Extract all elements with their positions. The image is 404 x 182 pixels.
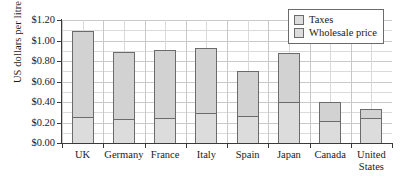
y-axis-title: US dollars per litre xyxy=(12,0,24,104)
bar-segment-taxes xyxy=(278,53,300,103)
bar-segment-taxes xyxy=(154,50,176,120)
legend-label: Taxes xyxy=(309,14,333,25)
x-axis-tick xyxy=(392,144,393,148)
y-axis-tick xyxy=(57,41,62,42)
stacked-bar-chart: US dollars per litre $0.00$0.20$0.40$0.6… xyxy=(0,0,404,182)
x-axis-tick xyxy=(103,144,104,148)
legend-swatch-icon xyxy=(294,15,304,25)
bar-segment-wholesale-price xyxy=(237,116,259,144)
y-axis-tick-label: $1.00 xyxy=(31,36,55,46)
y-axis-tick xyxy=(57,61,62,62)
gridline-vertical xyxy=(227,20,228,143)
x-axis-tick xyxy=(145,144,146,148)
gridline-vertical xyxy=(103,20,104,143)
bar-group xyxy=(154,20,176,143)
bar-segment-taxes xyxy=(360,109,382,119)
y-axis-tick xyxy=(57,102,62,103)
bar-segment-wholesale-price xyxy=(278,102,300,144)
legend-item-wholesale-price: Wholesale price xyxy=(294,26,377,39)
x-axis-tick xyxy=(351,144,352,148)
y-axis-tick-label: $0.80 xyxy=(31,56,55,66)
y-axis-tick xyxy=(57,20,62,21)
x-axis-tick xyxy=(227,144,228,148)
x-axis-tick xyxy=(310,144,311,148)
bar-segment-taxes xyxy=(237,71,259,117)
x-axis-tick xyxy=(186,144,187,148)
bar-segment-wholesale-price xyxy=(195,113,217,144)
bar-segment-wholesale-price xyxy=(113,119,135,144)
bar-segment-taxes xyxy=(319,102,341,122)
bar-segment-taxes xyxy=(195,48,217,115)
legend-label: Wholesale price xyxy=(309,27,377,38)
gridline-vertical xyxy=(145,20,146,143)
bar-segment-taxes xyxy=(72,31,94,118)
legend-item-taxes: Taxes xyxy=(294,13,377,26)
chart-legend: Taxes Wholesale price xyxy=(288,9,384,44)
bar-group xyxy=(237,20,259,143)
bar-group xyxy=(113,20,135,143)
bar-segment-wholesale-price xyxy=(360,118,382,144)
y-axis-tick-label: $0.00 xyxy=(31,138,55,148)
y-axis-tick xyxy=(57,82,62,83)
bar-segment-wholesale-price xyxy=(319,121,341,144)
x-axis-tick-label: United States xyxy=(345,149,398,173)
x-axis-tick xyxy=(268,144,269,148)
y-axis-tick-label: $0.60 xyxy=(31,77,55,87)
y-axis-tick-label: $0.20 xyxy=(31,118,55,128)
gridline-vertical xyxy=(186,20,187,143)
y-axis-tick xyxy=(57,123,62,124)
legend-swatch-icon xyxy=(294,28,304,38)
bar-segment-wholesale-price xyxy=(72,117,94,144)
y-axis-tick-label: $1.20 xyxy=(31,15,55,25)
bar-segment-taxes xyxy=(113,52,135,121)
x-axis-tick xyxy=(62,144,63,148)
bar-group xyxy=(195,20,217,143)
gridline-vertical xyxy=(268,20,269,143)
bar-group xyxy=(72,20,94,143)
gridline-vertical xyxy=(62,20,63,143)
bar-segment-wholesale-price xyxy=(154,118,176,144)
y-axis-tick-label: $0.40 xyxy=(31,97,55,107)
